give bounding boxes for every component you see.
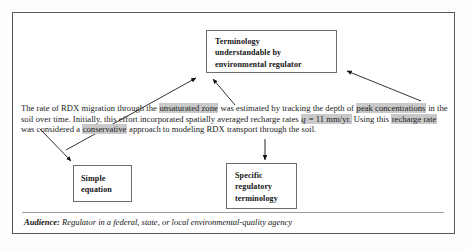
terminology-box-line-3: environmental regulator xyxy=(215,59,329,70)
simple-equation-box-line-2: equation xyxy=(81,184,126,195)
specific-regulatory-terminology-box-line-1: Specific xyxy=(235,170,291,181)
terminology-box-line-2: understandable by xyxy=(215,47,329,58)
simple-equation-box-content: Simple equation xyxy=(74,166,131,201)
audience-label: Audience: xyxy=(24,217,60,227)
paragraph-segment-9: was considered a xyxy=(21,124,82,134)
audience-text: Regulator in a federal, state, or local … xyxy=(60,217,292,227)
paragraph-segment-10: conservative xyxy=(82,124,127,134)
body-paragraph: The rate of RDX migration through the un… xyxy=(21,103,449,135)
specific-regulatory-terminology-box-line-3: terminology xyxy=(235,193,291,204)
paragraph-segment-6: = 11 mm/yr. xyxy=(306,114,351,124)
terminology-box-content: Terminology understandable by environmen… xyxy=(207,31,336,75)
simple-equation-box: Simple equation xyxy=(73,165,132,202)
specific-regulatory-terminology-box-content: Specific regulatory terminology xyxy=(227,164,296,209)
figure-canvas: Terminology understandable by environmen… xyxy=(0,0,470,251)
audience-line: Audience: Regulator in a federal, state,… xyxy=(24,217,292,227)
paragraph-segment-7: Using this xyxy=(352,114,392,124)
specific-regulatory-terminology-box-line-2: regulatory xyxy=(235,181,291,192)
paragraph-segment-0: The rate of RDX migration through the xyxy=(21,103,159,113)
specific-regulatory-terminology-box: Specific regulatory terminology xyxy=(226,163,297,209)
paragraph-segment-1: unsaturated zone xyxy=(159,103,218,113)
paragraph-segment-11: approach to modeling RDX transport throu… xyxy=(127,124,316,134)
paragraph-segment-3: peak concentrations xyxy=(356,103,426,113)
paragraph-segment-2: was estimated by tracking the depth of xyxy=(218,103,356,113)
simple-equation-box-line-1: Simple xyxy=(81,173,126,184)
paragraph-segment-8: recharge rate xyxy=(391,114,437,124)
audience-divider xyxy=(22,212,444,213)
terminology-box: Terminology understandable by environmen… xyxy=(206,30,337,73)
terminology-box-line-1: Terminology xyxy=(215,36,329,47)
